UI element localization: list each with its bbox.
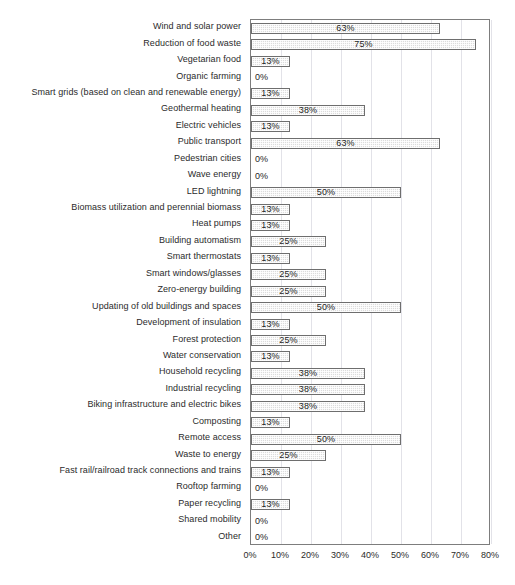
bar-row: 0% [251,152,489,168]
bar-value-label: 13% [261,89,279,98]
category-label: Forest protection [0,335,246,344]
bar-row: 13% [251,415,489,431]
category-label: Organic farming [0,72,246,81]
bar-row: 13% [251,464,489,480]
bar-row: 0% [251,513,489,529]
plot-area: 63%75%13%0%13%38%13%63%0%0%50%13%13%25%1… [250,19,490,545]
bar-row: 13% [251,497,489,513]
bar: 25% [251,236,326,247]
category-label: Biomass utilization and perennial biomas… [0,203,246,212]
category-label: Zero-energy building [0,285,246,294]
category-label: Geothermal heating [0,104,246,113]
category-label: Public transport [0,137,246,146]
bar-value-label: 38% [299,106,317,115]
x-tick-label: 30% [331,551,349,560]
bar-value-label: 63% [336,24,354,33]
bar-row: 13% [251,316,489,332]
bar: 50% [251,302,401,313]
category-label: Vegetarian food [0,55,246,64]
bar-value-label: 25% [279,336,297,345]
bar-row: 63% [251,135,489,151]
category-label: Composting [0,417,246,426]
x-tick-label: 0% [243,551,256,560]
x-tick-label: 20% [301,551,319,560]
x-tick-label: 70% [451,551,469,560]
bar: 50% [251,187,401,198]
bar: 25% [251,286,326,297]
category-label: Water conservation [0,351,246,360]
category-label: Wind and solar power [0,22,246,31]
bar-row: 0% [251,69,489,85]
bar-row: 13% [251,250,489,266]
bar: 63% [251,138,440,149]
bar-series: 63%75%13%0%13%38%13%63%0%0%50%13%13%25%1… [251,20,489,544]
bar-value-label: 25% [279,270,297,279]
category-label: Remote access [0,433,246,442]
category-label: Other [0,532,246,541]
bar-row: 13% [251,53,489,69]
category-label: Electric vehicles [0,121,246,130]
category-label: Waste to energy [0,450,246,459]
bar: 25% [251,335,326,346]
bar-row: 38% [251,398,489,414]
category-label: Paper recycling [0,499,246,508]
bar-value-label: 13% [261,122,279,131]
bar-row: 38% [251,102,489,118]
bar-row: 25% [251,447,489,463]
bar-value-label: 25% [279,237,297,246]
category-label: Building automatism [0,236,246,245]
x-tick-label: 50% [391,551,409,560]
x-axis-tick-labels: 0%10%20%30%40%50%60%70%80% [250,551,490,565]
bar-value-label: 50% [317,435,335,444]
bar: 38% [251,384,365,395]
bar-value-label: 13% [261,320,279,329]
bar: 13% [251,88,290,99]
bar-value-label: 0% [251,172,268,181]
bar: 75% [251,39,476,50]
category-label: Reduction of food waste [0,39,246,48]
x-tick-label: 10% [271,551,289,560]
category-label: Smart grids (based on clean and renewabl… [0,88,246,97]
category-label: Heat pumps [0,219,246,228]
bar-row: 50% [251,299,489,315]
bar-value-label: 0% [251,73,268,82]
bar-row: 0% [251,530,489,546]
bar: 13% [251,467,290,478]
bar: 13% [251,319,290,330]
bar: 25% [251,450,326,461]
bar-value-label: 50% [317,188,335,197]
category-label: Pedestrian cities [0,154,246,163]
bar-value-label: 63% [336,139,354,148]
bar-value-label: 75% [354,40,372,49]
bar-row: 50% [251,431,489,447]
bar: 50% [251,434,401,445]
bar-value-label: 38% [299,402,317,411]
category-label: LED lightning [0,187,246,196]
bar-value-label: 0% [251,155,268,164]
bar-value-label: 25% [279,451,297,460]
category-label: Smart windows/glasses [0,269,246,278]
bar: 25% [251,269,326,280]
category-label: Wave energy [0,170,246,179]
bar-row: 13% [251,86,489,102]
bar: 13% [251,56,290,67]
bar-row: 13% [251,349,489,365]
bar: 38% [251,401,365,412]
gridline-80 [491,20,492,544]
bar-row: 25% [251,283,489,299]
bar-value-label: 13% [261,468,279,477]
bar-row: 25% [251,234,489,250]
bar: 13% [251,204,290,215]
bar: 13% [251,351,290,362]
bar-value-label: 13% [261,500,279,509]
bar-row: 38% [251,365,489,381]
bar-value-label: 13% [261,57,279,66]
bar: 63% [251,23,440,34]
category-label: Rooftop farming [0,482,246,491]
bar-value-label: 38% [299,385,317,394]
bar-row: 0% [251,480,489,496]
bar-value-label: 25% [279,287,297,296]
bar-row: 0% [251,168,489,184]
bar: 13% [251,253,290,264]
x-tick-label: 40% [361,551,379,560]
